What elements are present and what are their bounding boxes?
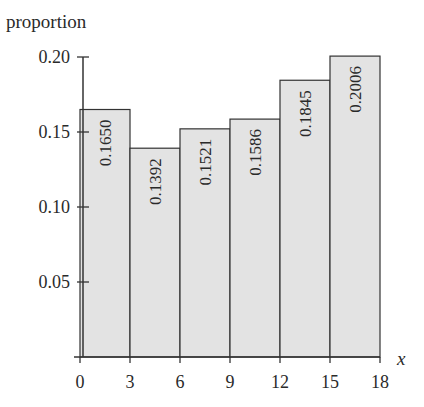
x-tick-label: 18	[371, 372, 389, 392]
y-tick-label: 0.20	[39, 47, 71, 67]
x-tick-label: 6	[176, 372, 185, 392]
x-tick-label: 0	[76, 372, 85, 392]
bar-value-label: 0.2006	[346, 66, 365, 113]
x-tick-label: 9	[226, 372, 235, 392]
y-tick-label: 0.15	[39, 122, 71, 142]
x-axis-ticks: 0369121518	[76, 357, 390, 392]
x-tick-label: 12	[271, 372, 289, 392]
bar-value-label: 0.1392	[146, 158, 165, 205]
bar-value-label: 0.1845	[296, 90, 315, 137]
histogram-chart: 0.16500.13920.15210.15860.18450.2006 0.0…	[0, 0, 424, 407]
x-tick-label: 15	[321, 372, 339, 392]
x-axis-title: x	[396, 348, 406, 369]
bar-value-label: 0.1586	[246, 129, 265, 176]
bar-value-label: 0.1521	[196, 139, 215, 186]
y-tick-label: 0.05	[39, 272, 71, 292]
y-axis-title: proportion	[6, 11, 87, 32]
bar-value-label: 0.1650	[96, 120, 115, 167]
y-tick-label: 0.10	[39, 197, 71, 217]
bars-group	[80, 56, 380, 357]
x-tick-label: 3	[126, 372, 135, 392]
